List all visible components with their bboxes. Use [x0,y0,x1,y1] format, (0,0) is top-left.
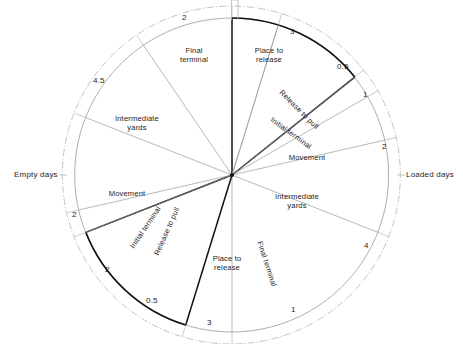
sector-label-final-terminal-top: Final terminal [166,46,222,65]
tick-value-bottom-left-half: 0.5 [146,296,158,305]
tick-value-right-four: 4 [364,241,369,250]
tick-value-bottom-three: 3 [207,318,212,327]
tick-value-bottom-right: 1 [291,305,296,314]
sector-label-intermediate-yards-left: Intermediate yards [101,114,173,133]
tick-value-top-right: 3 [290,27,295,36]
sector-label-place-to-release-top: Place to release [240,46,298,65]
tick-value-right-half: 0.5 [337,62,349,71]
tick-value-left-fourfive: 4.5 [93,76,105,85]
tick-value-right-one: 1 [363,90,368,99]
sector-label-place-to-release-bottom: Place to release [198,254,256,273]
tick-value-top-left: 2 [182,13,187,22]
side-label-empty-days: Empty days [14,170,58,179]
cycle-wheel-svg [0,0,463,344]
sector-label-movement-left: Movement [96,189,158,198]
tick-value-right-two: 2 [382,142,387,151]
diagram-canvas: Final terminal Place to release Movement… [0,0,463,344]
sector-label-intermediate-yards-right: Intermediate yards [261,192,333,211]
side-label-loaded-days: Loaded days [406,170,454,179]
tick-value-left-two: 2 [72,210,77,219]
sector-label-movement-right: Movement [276,153,338,162]
tick-value-left-lower-two: 2 [105,265,110,274]
